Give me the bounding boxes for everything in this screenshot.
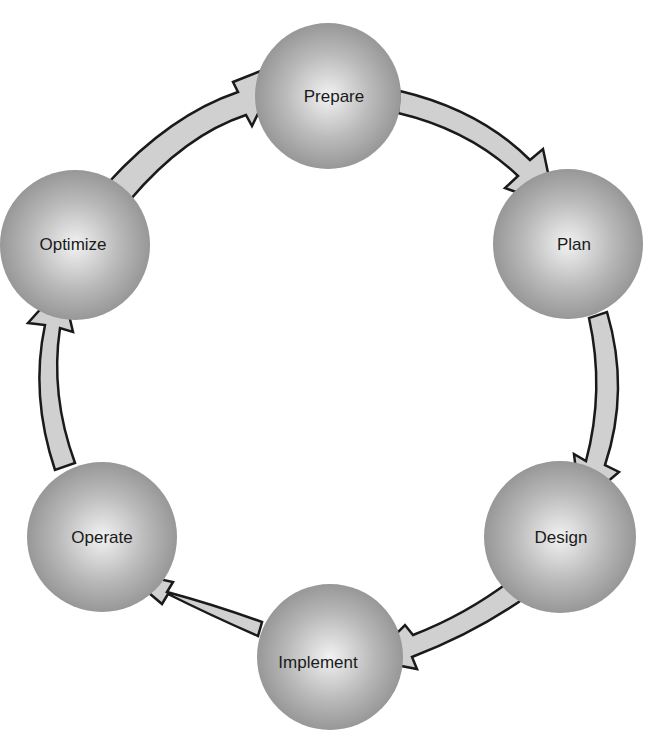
label-plan: Plan <box>557 235 591 254</box>
label-design: Design <box>535 528 588 547</box>
label-operate: Operate <box>71 528 132 547</box>
node-plan: Plan <box>493 169 643 319</box>
cycle-diagram: Prepare Plan Design Implement Operate Op… <box>0 0 657 736</box>
node-implement: Implement <box>257 584 403 730</box>
node-prepare: Prepare <box>255 23 401 169</box>
node-design: Design <box>484 461 636 613</box>
node-operate: Operate <box>27 462 177 612</box>
node-optimize: Optimize <box>0 170 150 320</box>
label-implement: Implement <box>278 653 358 672</box>
label-optimize: Optimize <box>39 235 106 254</box>
label-prepare: Prepare <box>304 87 364 106</box>
